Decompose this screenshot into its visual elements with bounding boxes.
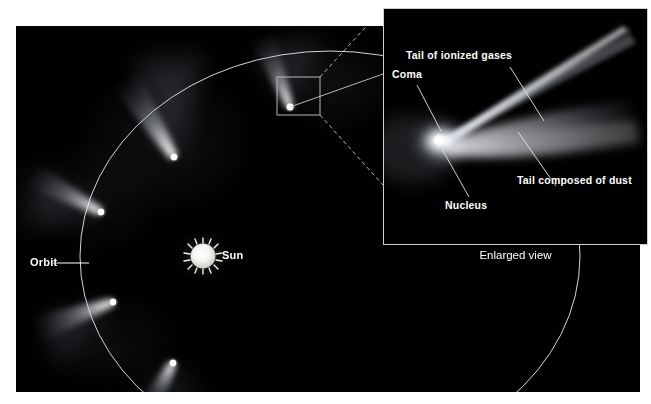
- background-haze-2: [16, 136, 166, 256]
- background-haze-4: [271, 26, 401, 136]
- background-haze-1: [76, 66, 256, 216]
- figure-canvas: Orbit Sun: [0, 0, 651, 404]
- background-haze-3: [36, 291, 186, 392]
- orbit-label: Orbit: [30, 256, 57, 268]
- dust-tail-label: Tail composed of dust: [517, 174, 632, 186]
- enlarged-view-panel: Tail of ionized gases Coma Nucleus Tail …: [383, 8, 648, 245]
- enlarged-view-caption: Enlarged view: [383, 249, 648, 261]
- enlarged-comet-vector-layer: [384, 9, 647, 244]
- coma-label: Coma: [392, 68, 422, 80]
- ion-tail-label: Tail of ionized gases: [406, 49, 512, 61]
- sun-label: Sun: [222, 249, 243, 261]
- nucleus-label: Nucleus: [445, 199, 487, 211]
